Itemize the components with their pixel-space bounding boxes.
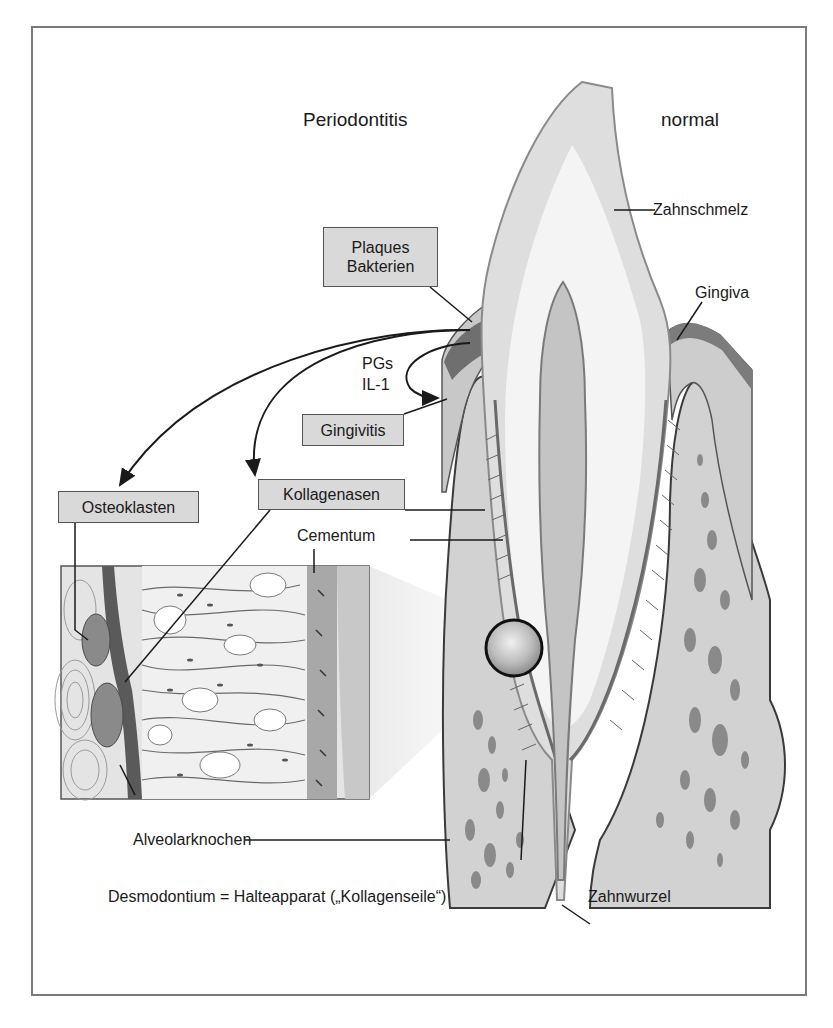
heading-periodontitis: Periodontitis [303, 109, 408, 131]
kollagenasen-box: Kollagenasen [258, 479, 405, 510]
osteoklasten-label: Osteoklasten [82, 498, 175, 517]
osteoklasten-box: Osteoklasten [58, 491, 199, 523]
plaques-label: Plaques [352, 238, 410, 257]
label-cementum: Cementum [297, 526, 375, 545]
magnifier-circle [486, 620, 542, 676]
label-zahnwurzel: Zahnwurzel [588, 887, 671, 906]
bakterien-label: Bakterien [347, 257, 415, 276]
gingivitis-label: Gingivitis [321, 421, 386, 440]
gingivitis-box: Gingivitis [302, 414, 404, 446]
label-zahnschmelz: Zahnschmelz [653, 200, 748, 219]
mediator-pgs: PGs [362, 354, 393, 373]
label-gingiva: Gingiva [695, 283, 749, 302]
plaques-bakterien-box: Plaques Bakterien [323, 227, 438, 287]
pathway-arrows [120, 330, 470, 485]
histology-inset [55, 566, 369, 800]
heading-normal: normal [661, 109, 719, 131]
mediator-il1: IL-1 [362, 375, 390, 394]
kollagenasen-label: Kollagenasen [283, 485, 380, 504]
label-desmodontium: Desmodontium = Halteapparat („Kollagense… [108, 887, 446, 906]
label-alveolarknochen: Alveolarknochen [133, 830, 251, 849]
